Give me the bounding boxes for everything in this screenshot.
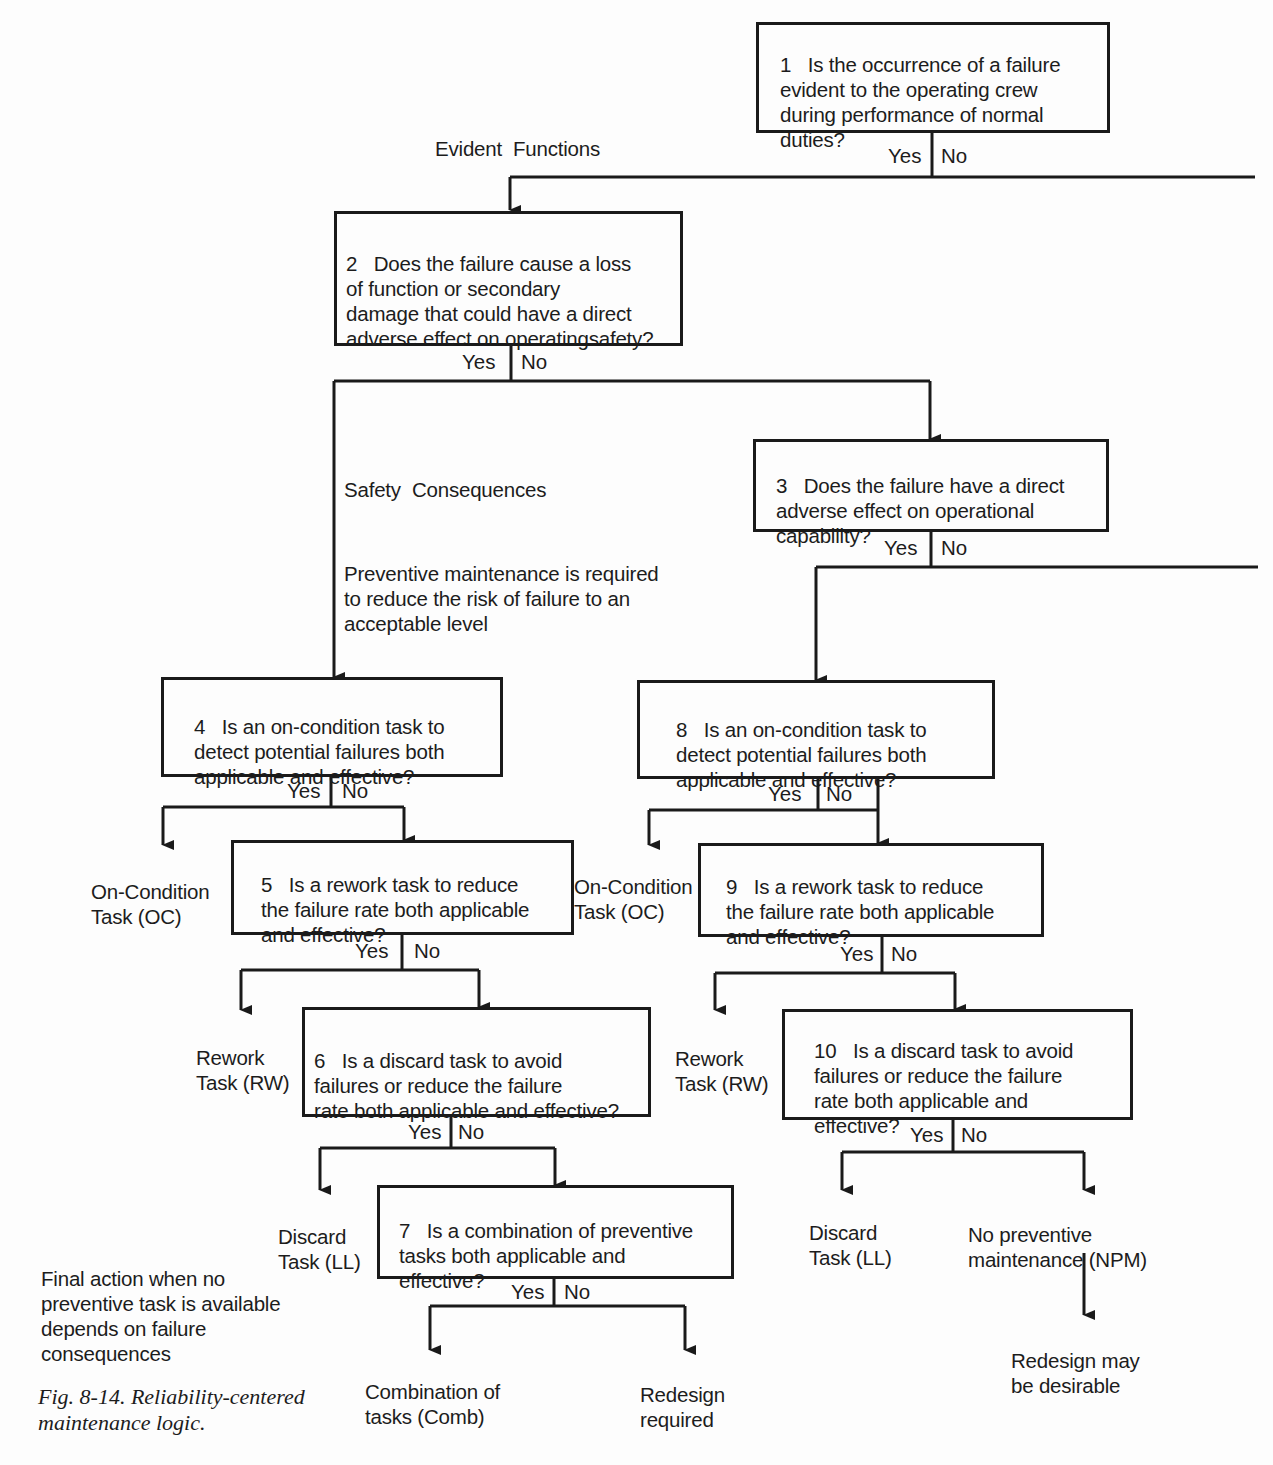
q5-no-label: No — [414, 939, 440, 963]
q9-no-label: No — [891, 942, 917, 966]
q1-no-label: No — [941, 144, 967, 168]
question-4-text: 4 Is an on-condition task todetect poten… — [194, 689, 444, 789]
figure-caption: Fig. 8-14. Reliability-centeredmaintenan… — [38, 1358, 305, 1436]
safety-consequences-label: Safety Consequences — [344, 477, 546, 502]
q3-yes-label: Yes — [884, 536, 917, 560]
question-5-text: 5 Is a rework task to reducethe failure … — [261, 847, 529, 947]
q9-yes-label: Yes — [840, 942, 873, 966]
outcome-redesign-required: Redesignrequired — [640, 1357, 725, 1432]
q5-yes-label: Yes — [355, 939, 388, 963]
q7-no-label: No — [564, 1280, 590, 1304]
question-9-text: 9 Is a rework task to reducethe failure … — [726, 849, 994, 949]
evident-functions-label: Evident Functions — [435, 136, 600, 161]
question-2-text: 2 Does the failure cause a lossof functi… — [346, 226, 653, 351]
q3-no-label: No — [941, 536, 967, 560]
outcome-rework-left: ReworkTask (RW) — [196, 1020, 289, 1095]
q6-no-label: No — [458, 1120, 484, 1144]
safety-note: Preventive maintenance is requiredto red… — [344, 536, 659, 636]
outcome-discard-right: DiscardTask (LL) — [809, 1195, 892, 1270]
q2-yes-label: Yes — [462, 350, 495, 374]
q10-no-label: No — [961, 1123, 987, 1147]
outcome-combination: Combination oftasks (Comb) — [365, 1354, 500, 1429]
outcome-on-condition-right: On-ConditionTask (OC) — [574, 849, 692, 924]
final-action-note: Final action when nopreventive task is a… — [41, 1241, 280, 1366]
question-3-text: 3 Does the failure have a directadverse … — [776, 448, 1064, 548]
q6-yes-label: Yes — [408, 1120, 441, 1144]
q8-no-label: No — [826, 782, 852, 806]
q2-no-label: No — [521, 350, 547, 374]
q7-yes-label: Yes — [511, 1280, 544, 1304]
question-7-text: 7 Is a combination of preventivetasks bo… — [399, 1193, 693, 1293]
q1-yes-label: Yes — [888, 144, 921, 168]
question-8-text: 8 Is an on-condition task todetect poten… — [676, 692, 926, 792]
question-6-text: 6 Is a discard task to avoidfailures or … — [314, 1023, 619, 1123]
q4-no-label: No — [342, 779, 368, 803]
q8-yes-label: Yes — [768, 782, 801, 806]
q4-yes-label: Yes — [287, 779, 320, 803]
outcome-rework-right: ReworkTask (RW) — [675, 1021, 768, 1096]
question-10-text: 10 Is a discard task to avoidfailures or… — [814, 1013, 1073, 1138]
outcome-discard-left: DiscardTask (LL) — [278, 1199, 361, 1274]
outcome-npm: No preventivemaintenance (NPM) — [968, 1197, 1147, 1272]
outcome-redesign-desirable: Redesign maybe desirable — [1011, 1323, 1140, 1398]
outcome-on-condition-left: On-ConditionTask (OC) — [91, 854, 209, 929]
question-1-text: 1 Is the occurrence of a failureevident … — [780, 27, 1060, 152]
q10-yes-label: Yes — [910, 1123, 943, 1147]
